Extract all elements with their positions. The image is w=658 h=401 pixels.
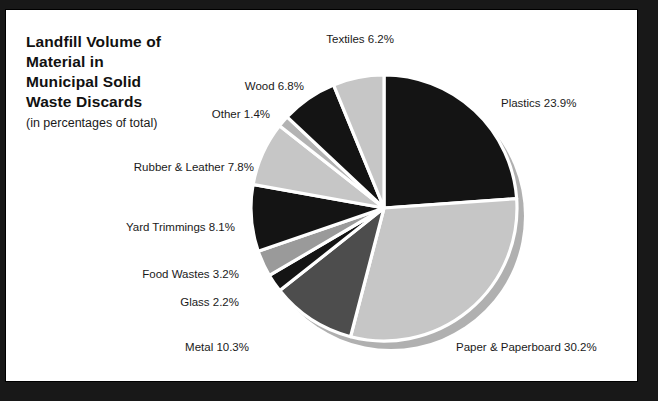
pie-label-wood: Wood 6.8% — [245, 80, 304, 93]
chart-panel: Landfill Volume of Material in Municipal… — [5, 9, 638, 382]
screenshot-root: Landfill Volume of Material in Municipal… — [0, 0, 658, 401]
pie-label-textiles: Textiles 6.2% — [326, 33, 394, 46]
pie-label-rubber-leather: Rubber & Leather 7.8% — [134, 161, 254, 174]
pie-chart-svg — [6, 10, 639, 383]
pie-label-other: Other 1.4% — [212, 108, 270, 121]
pie-label-food-wastes: Food Wastes 3.2% — [142, 268, 239, 281]
pie-label-metal: Metal 10.3% — [185, 341, 249, 354]
pie-slice-group — [251, 75, 517, 341]
pie-label-glass: Glass 2.2% — [180, 296, 239, 309]
pie-slice-plastics[interactable] — [384, 75, 517, 208]
pie-label-paper-paperboard: Paper & Paperboard 30.2% — [456, 341, 597, 354]
pie-chart: Plastics 23.9%Paper & Paperboard 30.2%Me… — [6, 10, 639, 383]
pie-label-yard-trimmings: Yard Trimmings 8.1% — [126, 221, 235, 234]
pie-label-plastics: Plastics 23.9% — [501, 97, 576, 110]
